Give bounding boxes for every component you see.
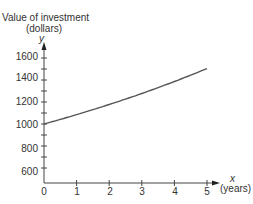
- data-line: [44, 69, 207, 124]
- plot-area: [0, 0, 253, 204]
- y-axis-arrow-icon: [42, 42, 47, 50]
- x-axis-arrow-icon: [212, 181, 220, 186]
